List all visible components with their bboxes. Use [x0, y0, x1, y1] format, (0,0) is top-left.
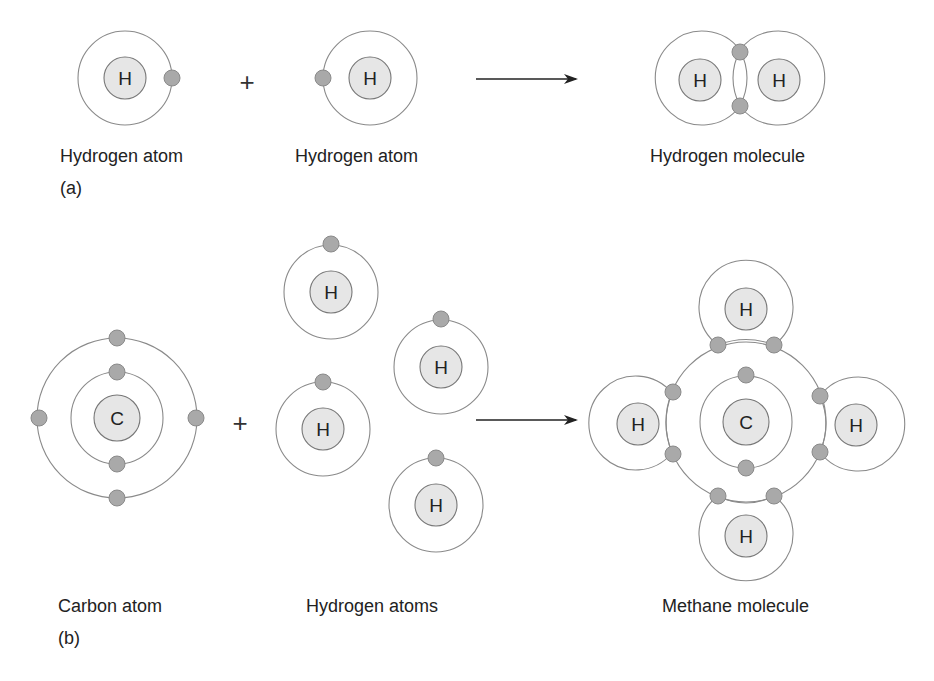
- nucleus-symbol: H: [316, 419, 330, 440]
- nucleus-symbol: H: [739, 526, 753, 547]
- hydrogen-atom: H: [394, 311, 488, 414]
- outer-electron: [109, 490, 125, 506]
- nucleus-symbol: C: [739, 412, 753, 433]
- shared-electron: [766, 337, 782, 353]
- electron: [428, 450, 444, 466]
- electron: [315, 70, 331, 86]
- outer-electron: [109, 330, 125, 346]
- inner-electron: [738, 367, 754, 383]
- shared-electron: [732, 98, 748, 114]
- hydrogen-atom-1: H: [78, 31, 180, 125]
- nucleus-symbol: C: [110, 408, 124, 429]
- electron: [315, 374, 331, 390]
- panel-label-b: (b): [58, 628, 80, 648]
- nucleus-symbol: H: [429, 495, 443, 516]
- shared-electron: [732, 44, 748, 60]
- nucleus-symbol: H: [631, 414, 645, 435]
- carbon-atom: C: [31, 330, 204, 506]
- inner-electron: [109, 456, 125, 472]
- inner-electron: [109, 364, 125, 380]
- shared-electron: [812, 444, 828, 460]
- shared-electron: [710, 488, 726, 504]
- hydrogen-atoms-group: H H H H: [276, 236, 488, 552]
- electron: [433, 311, 449, 327]
- nucleus-symbol: H: [324, 282, 338, 303]
- label-hydrogen-molecule: Hydrogen molecule: [650, 146, 805, 166]
- bonding-diagram: H + H H H Hydrogen atom Hydrogen atom Hy…: [0, 0, 934, 681]
- shared-electron: [710, 337, 726, 353]
- electron: [164, 70, 180, 86]
- inner-electron: [738, 460, 754, 476]
- hydrogen-atom: H: [389, 450, 483, 552]
- shared-electron: [766, 488, 782, 504]
- label-methane-molecule: Methane molecule: [662, 596, 809, 616]
- shared-electron: [812, 388, 828, 404]
- electron: [323, 236, 339, 252]
- hydrogen-atom: H: [276, 374, 370, 476]
- nucleus-symbol: H: [693, 70, 707, 91]
- hydrogen-atom-2: H: [315, 31, 417, 125]
- shared-electron: [665, 384, 681, 400]
- label-hydrogen-atoms: Hydrogen atoms: [306, 596, 438, 616]
- label-hydrogen-atom-2: Hydrogen atom: [295, 146, 418, 166]
- hydrogen-atom: H: [284, 236, 378, 339]
- label-carbon-atom: Carbon atom: [58, 596, 162, 616]
- hydrogen-molecule: H H: [655, 31, 824, 125]
- outer-electron: [31, 410, 47, 426]
- outer-electron: [188, 410, 204, 426]
- label-hydrogen-atom-1: Hydrogen atom: [60, 146, 183, 166]
- shared-electron: [665, 446, 681, 462]
- nucleus-symbol: H: [434, 357, 448, 378]
- nucleus-symbol: H: [118, 68, 132, 89]
- nucleus-symbol: H: [772, 70, 786, 91]
- plus-sign: +: [239, 67, 254, 97]
- panel-label-a: (a): [60, 178, 82, 198]
- methane-molecule: C H H H H: [589, 260, 905, 580]
- plus-sign: +: [232, 408, 247, 438]
- nucleus-symbol: H: [363, 68, 377, 89]
- nucleus-symbol: H: [739, 299, 753, 320]
- shared-orbit: [666, 393, 672, 453]
- nucleus-symbol: H: [849, 415, 863, 436]
